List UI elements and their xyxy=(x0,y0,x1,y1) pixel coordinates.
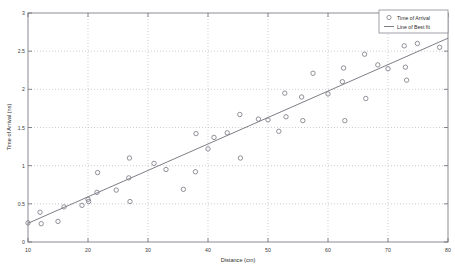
y-tick-label: 2 xyxy=(22,86,25,92)
y-axis-title: Time of Arrival (ns) xyxy=(6,104,12,151)
x-axis-title: Distance (cm) xyxy=(221,257,256,263)
figure-container: 1020304050607080 00.511.522.53 Distance … xyxy=(0,0,455,270)
legend-label-scatter: Time of Arrival xyxy=(397,15,430,21)
x-tick-label: 20 xyxy=(85,247,91,253)
x-tick-label: 60 xyxy=(325,247,331,253)
y-tick-label: 0.5 xyxy=(18,201,25,207)
y-tick-label: 2.5 xyxy=(18,48,25,54)
x-tick-label: 80 xyxy=(445,247,451,253)
x-tick-label: 30 xyxy=(145,247,151,253)
y-tick-labels: 00.511.522.53 xyxy=(18,10,25,245)
y-tick-label: 3 xyxy=(22,10,25,16)
legend-label-line: Line of Best fit xyxy=(397,24,430,30)
x-tick-label: 50 xyxy=(265,247,271,253)
legend: Time of Arrival Line of Best fit xyxy=(379,10,448,33)
y-tick-label: 1 xyxy=(22,163,25,169)
x-tick-label: 40 xyxy=(205,247,211,253)
y-tick-label: 1.5 xyxy=(18,125,25,131)
scatter-plot: 1020304050607080 00.511.522.53 Distance … xyxy=(0,0,455,270)
x-tick-label: 70 xyxy=(385,247,391,253)
x-tick-labels: 1020304050607080 xyxy=(25,247,451,253)
x-tick-label: 10 xyxy=(25,247,31,253)
y-tick-label: 0 xyxy=(22,239,25,245)
